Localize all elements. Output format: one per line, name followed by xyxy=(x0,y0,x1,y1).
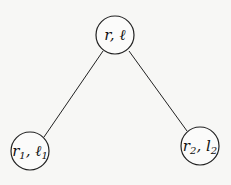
edge-root-to-left xyxy=(44,51,103,137)
right-child-node: r2, l2 xyxy=(181,127,219,165)
root-label-l: ℓ xyxy=(119,26,125,44)
tree-diagram: r, ℓ r1, ℓ1 r2, l2 xyxy=(0,0,231,185)
edge-root-to-right xyxy=(129,51,187,131)
svg-text:r, ℓ: r, ℓ xyxy=(104,26,125,44)
left-child-node: r1, ℓ1 xyxy=(11,132,49,170)
root-node: r, ℓ xyxy=(96,16,134,54)
